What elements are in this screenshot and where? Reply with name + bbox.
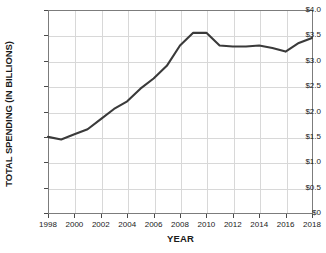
x-tick-mark <box>206 214 207 218</box>
x-tick-mark <box>48 214 49 218</box>
x-tick-label: 2018 <box>292 220 326 229</box>
y-tick-mark <box>44 162 48 163</box>
x-tick-mark <box>74 214 75 218</box>
series-line-total-spending <box>48 33 312 140</box>
y-tick-mark <box>44 10 48 11</box>
y-tick-label: $1.5 <box>277 133 321 141</box>
y-tick-label: $2.0 <box>277 108 321 116</box>
x-tick-mark <box>233 214 234 218</box>
x-tick-mark <box>259 214 260 218</box>
y-tick-label: $4.0 <box>277 6 321 14</box>
y-axis-title: TOTAL SPENDING (IN BILLIONS) <box>2 4 16 224</box>
y-tick-label: $0 <box>277 209 321 217</box>
y-tick-label: $1.0 <box>277 158 321 166</box>
y-tick-label: $0.5 <box>277 184 321 192</box>
y-tick-mark <box>44 137 48 138</box>
y-tick-label: $2.5 <box>277 82 321 90</box>
y-tick-mark <box>44 86 48 87</box>
x-tick-mark <box>180 214 181 218</box>
x-tick-mark <box>127 214 128 218</box>
y-tick-label: $3.0 <box>277 57 321 65</box>
y-tick-mark <box>44 61 48 62</box>
x-tick-mark <box>154 214 155 218</box>
x-tick-mark <box>101 214 102 218</box>
x-tick-mark <box>286 214 287 218</box>
x-axis-title: YEAR <box>48 233 313 244</box>
y-tick-mark <box>44 35 48 36</box>
y-tick-mark <box>44 188 48 189</box>
x-tick-mark <box>312 214 313 218</box>
y-tick-label: $3.5 <box>277 31 321 39</box>
y-tick-mark <box>44 112 48 113</box>
data-series-layer <box>48 10 313 214</box>
